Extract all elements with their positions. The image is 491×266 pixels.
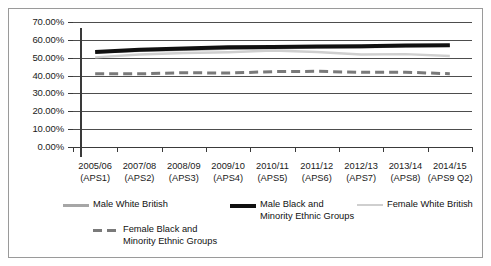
legend-label: Female White British <box>387 199 473 211</box>
legend-item[interactable]: Female White British <box>357 199 473 211</box>
x-axis-label: 2008/09(APS3) <box>162 161 206 184</box>
y-axis-label: 50.00% <box>9 52 64 63</box>
legend-swatch-icon <box>357 199 383 211</box>
y-axis-label: 20.00% <box>9 105 64 116</box>
x-axis-label-line: 2013/14 <box>383 161 427 173</box>
legend-label: Female Black and Minority Ethnic Groups <box>123 224 217 247</box>
legend-swatch-icon <box>230 199 256 211</box>
legend-label: Male White British <box>93 199 168 211</box>
x-axis-label-line: (APS6) <box>295 173 339 185</box>
chart-figure: 70.00%60.00%50.00%40.00%30.00%20.00%10.0… <box>0 0 491 266</box>
x-axis-label: 2012/13(APS7) <box>339 161 383 184</box>
y-axis-tick <box>68 93 73 94</box>
x-axis-label-line: (APS7) <box>339 173 383 185</box>
y-axis-label: 70.00% <box>9 16 64 27</box>
x-axis-line <box>73 147 472 148</box>
legend-item[interactable]: Male White British <box>63 199 168 211</box>
x-axis-label: 2010/11(APS5) <box>250 161 294 184</box>
gridline <box>73 22 472 23</box>
x-axis-label-line: (APS4) <box>206 173 250 185</box>
plot-area <box>81 30 480 155</box>
y-axis-tick <box>68 40 73 41</box>
legend-item[interactable]: Male Black and Minority Ethnic Groups <box>230 199 354 222</box>
x-axis-label: 2007/08(APS2) <box>117 161 161 184</box>
y-axis-label: 60.00% <box>9 34 64 45</box>
chart-frame: 70.00%60.00%50.00%40.00%30.00%20.00%10.0… <box>8 8 483 258</box>
legend-item[interactable]: Female Black and Minority Ethnic Groups <box>93 224 217 247</box>
x-axis-label-line: (APS9 Q2) <box>428 173 472 185</box>
legend-swatch-icon <box>93 224 119 236</box>
x-axis-label-line: 2010/11 <box>250 161 294 173</box>
x-axis-label-line: (APS1) <box>73 173 117 185</box>
y-axis-tick <box>68 111 73 112</box>
x-axis-label-line: (APS5) <box>250 173 294 185</box>
x-axis-label-line: 2011/12 <box>295 161 339 173</box>
x-axis-label-line: 2014/15 <box>428 161 472 173</box>
y-axis-label: 10.00% <box>9 123 64 134</box>
x-axis-label-line: (APS2) <box>117 173 161 185</box>
y-axis-tick <box>68 129 73 130</box>
x-axis-label: 2005/06(APS1) <box>73 161 117 184</box>
x-axis-label-line: 2005/06 <box>73 161 117 173</box>
y-axis-label: 40.00% <box>9 70 64 81</box>
x-axis-label: 2013/14(APS8) <box>383 161 427 184</box>
y-axis-tick <box>68 58 73 59</box>
y-axis-tick <box>68 76 73 77</box>
x-axis-label-line: 2007/08 <box>117 161 161 173</box>
x-axis-label-line: 2009/10 <box>206 161 250 173</box>
x-axis-label-line: (APS8) <box>383 173 427 185</box>
x-axis-tick <box>472 147 473 152</box>
x-axis-label-line: 2012/13 <box>339 161 383 173</box>
x-axis-label: 2011/12(APS6) <box>295 161 339 184</box>
y-axis-label: 30.00% <box>9 87 64 98</box>
legend-swatch-icon <box>63 199 89 211</box>
y-axis-label: 0.00% <box>9 141 64 152</box>
x-axis-label-line: (APS3) <box>162 173 206 185</box>
legend-label: Male Black and Minority Ethnic Groups <box>260 199 354 222</box>
y-axis-tick <box>68 22 73 23</box>
chart-legend: Male White BritishMale Black and Minorit… <box>17 195 491 257</box>
x-axis-label: 2014/15(APS9 Q2) <box>428 161 472 184</box>
x-axis-label-line: 2008/09 <box>162 161 206 173</box>
x-axis-label: 2009/10(APS4) <box>206 161 250 184</box>
